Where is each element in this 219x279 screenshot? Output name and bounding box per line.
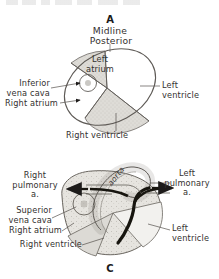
panel-c-label-superior-vena-cava: Superior vena cava bbox=[0, 206, 52, 225]
panel-a-label-left-atrium: Left atrium bbox=[76, 55, 124, 74]
panel-c-label-left-pulmonary-artery: Left pulmonary a. bbox=[158, 169, 216, 198]
panel-c-letter: C bbox=[100, 263, 120, 274]
panel-a-letter: A bbox=[100, 14, 120, 25]
panel-a-label-inferior-vena-cava: Inferior vena cava bbox=[2, 79, 50, 98]
panel-a-drawing bbox=[51, 34, 169, 141]
panel-c-svc-lumen bbox=[81, 201, 88, 208]
panel-a-label-right-atrium: Right atrium bbox=[0, 99, 58, 109]
panel-c-label-right-atrium: Right atrium bbox=[0, 226, 62, 236]
panel-a-label-right-ventricle: Right ventricle bbox=[66, 131, 146, 141]
panel-a-ra-leader bbox=[60, 100, 80, 103]
panel-c-label-right-pulmonary-artery: Right pulmonary a. bbox=[6, 171, 64, 200]
panel-c-label-right-ventricle: Right ventricle bbox=[0, 240, 82, 250]
panel-a-label-left-ventricle: Left ventricle bbox=[162, 81, 218, 100]
panel-a-ivc-lumen bbox=[85, 80, 91, 86]
figure-page: A Midline Posterior Left atrium Inferior… bbox=[0, 0, 219, 279]
panel-c-label-left-ventricle: Left ventricle bbox=[172, 224, 218, 243]
panel-a-right-ventricle-wedge bbox=[85, 88, 149, 133]
panel-a-header-posterior: Posterior bbox=[66, 36, 156, 47]
